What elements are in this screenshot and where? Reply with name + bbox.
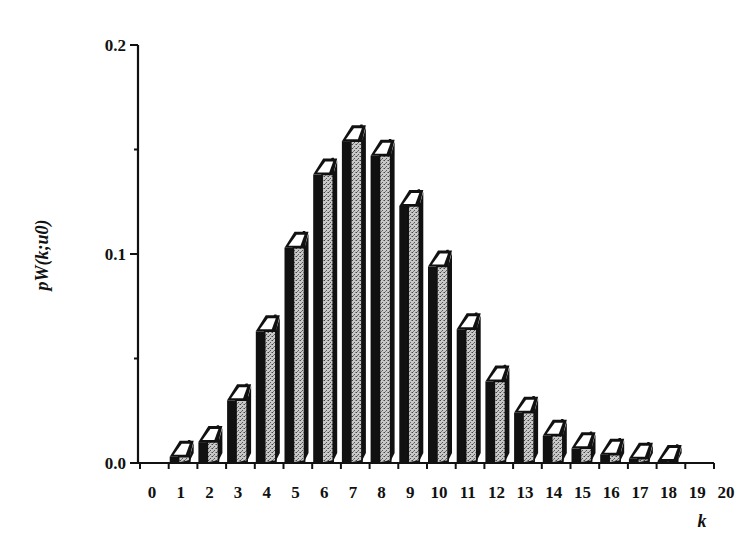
y-axis-label: pW(k;u0) <box>32 220 53 293</box>
bar-k-8 <box>371 140 395 463</box>
bar-k-12 <box>485 365 509 463</box>
x-tick-label: 8 <box>377 483 386 502</box>
x-tick-label: 13 <box>517 483 534 502</box>
y-ticks-group: 0.00.10.2 <box>105 36 138 473</box>
x-tick-label: 12 <box>488 483 505 502</box>
x-tick-label: 18 <box>660 483 677 502</box>
bar-k-13 <box>514 397 538 463</box>
bar-k-3 <box>227 384 251 463</box>
x-tick-label: 20 <box>718 483 735 502</box>
x-tick-label: 7 <box>349 483 358 502</box>
x-tick-label: 19 <box>689 483 706 502</box>
bar-k-16 <box>600 439 624 463</box>
x-tick-label: 3 <box>234 483 243 502</box>
x-tick-label: 2 <box>205 483 214 502</box>
x-tick-label: 17 <box>631 483 649 502</box>
bar-k-4 <box>256 315 280 463</box>
x-axis-label: k <box>698 511 707 531</box>
x-tick-label: 10 <box>431 483 448 502</box>
bar-k-5 <box>285 232 309 463</box>
x-ticks-group: 01234567891011121314151617181920 <box>140 463 735 502</box>
bar-k-14 <box>543 420 567 463</box>
bar-k-2 <box>198 426 222 463</box>
bar-k-9 <box>399 190 423 463</box>
x-tick-label: 0 <box>148 483 157 502</box>
bar-k-1 <box>170 441 194 463</box>
bar-k-7 <box>342 125 366 463</box>
bar-k-10 <box>428 251 452 463</box>
x-tick-label: 4 <box>263 483 272 502</box>
y-tick-label: 0.0 <box>105 454 126 473</box>
x-tick-label: 9 <box>406 483 415 502</box>
x-tick-label: 16 <box>603 483 620 502</box>
bar-k-18 <box>658 445 682 463</box>
chart: 0.00.10.2 012345678910111213141516171819… <box>0 0 756 557</box>
y-tick-label: 0.2 <box>105 36 126 55</box>
x-tick-label: 15 <box>574 483 591 502</box>
x-tick-label: 11 <box>460 483 476 502</box>
x-tick-label: 6 <box>320 483 329 502</box>
bar-k-6 <box>313 159 337 463</box>
x-tick-label: 14 <box>545 483 563 502</box>
x-tick-label: 1 <box>176 483 185 502</box>
bars-group <box>170 125 682 463</box>
bar-k-11 <box>457 313 481 463</box>
bar-k-15 <box>572 432 596 463</box>
y-tick-label: 0.1 <box>105 245 126 264</box>
x-tick-label: 5 <box>291 483 300 502</box>
bar-k-17 <box>629 443 653 463</box>
